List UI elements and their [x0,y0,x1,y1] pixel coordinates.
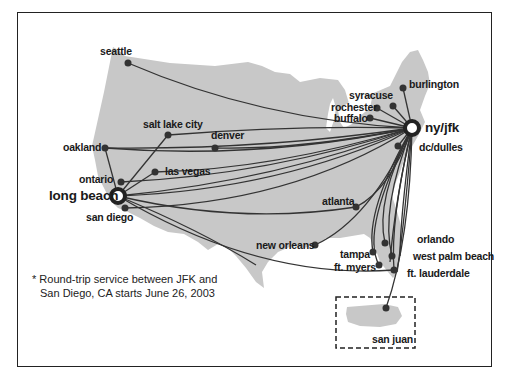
us-mainland-shape [92,47,430,288]
footnote: * Round-trip service between JFK and San… [32,272,217,300]
footnote-line-1: * Round-trip service between JFK and [32,272,217,286]
label-dc-dulles: dc/dulles [419,142,463,153]
label-seattle: seattle [100,46,132,57]
puerto-rico-shape [346,304,402,327]
label-salt-lake-city: salt lake city [143,119,203,130]
label-rochester: rochester [331,102,377,113]
label-ny-jfk: ny/jfk [425,121,459,135]
label-buffalo: buffalo [334,113,368,124]
label-burlington: burlington [409,79,459,90]
label-tampa: tampa [340,249,370,260]
label-atlanta: atlanta [322,196,354,207]
label-san-diego: san diego [86,212,133,223]
label-long-beach: long beach [49,189,118,203]
label-west-palm-beach: west palm beach [413,251,494,262]
route-map [0,0,505,373]
label-ontario: ontario [79,174,113,185]
label-ft-lauderdale: ft. lauderdale [407,268,470,279]
label-las-vegas: las vegas [165,166,211,177]
footnote-line-2: San Diego, CA starts June 26, 2003 [32,286,217,300]
label-denver: denver [211,130,244,141]
label-ft-myers: ft. myers [334,262,376,273]
label-san-juan: san juan [372,334,413,345]
label-oakland: oakland [63,142,101,153]
label-orlando: orlando [417,234,454,245]
label-syracuse: syracuse [349,90,393,101]
label-new-orleans: new orleans [256,240,315,251]
